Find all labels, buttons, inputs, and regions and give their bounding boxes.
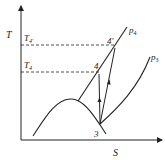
- point-4-label: 4: [94, 61, 99, 71]
- t4-prime-label: T4': [24, 33, 34, 44]
- p3-isobar: [100, 57, 150, 124]
- x-axis-label: S: [113, 147, 118, 158]
- p3-label: p3: [150, 52, 159, 63]
- arrow-3-4: [98, 97, 102, 102]
- p4-label: p4: [128, 25, 137, 36]
- p4-isobar: [78, 27, 127, 101]
- t4-label: T4: [24, 60, 32, 71]
- point-3-label: 3: [93, 129, 99, 139]
- ts-diagram: T S T4' T4 4' 4 3 p4 p3: [0, 0, 165, 160]
- y-axis-label: T: [6, 29, 13, 40]
- point-4-prime-label: 4': [107, 36, 115, 46]
